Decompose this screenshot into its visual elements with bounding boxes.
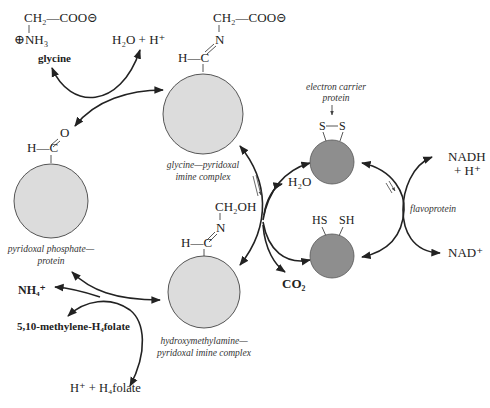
hydroxymethylamine-complex: CH₂OH N H—C hydroxymethylamine— pyridoxa… <box>156 199 256 358</box>
hmc-formula-top: CH₂OH <box>215 199 256 214</box>
nadh-h-label: + H⁺ <box>454 163 481 178</box>
ppp-protein-circle <box>14 164 88 238</box>
ppp-label-2: protein <box>36 256 64 266</box>
ppp-o: O <box>60 125 69 140</box>
electron-carrier-protein: electron carrier protein S S HS SH <box>306 82 366 278</box>
ecp-hs: HS <box>312 213 327 227</box>
ecp-label-1: electron carrier <box>306 82 366 92</box>
glycine-label: glycine <box>38 52 71 64</box>
hmc-hc: H—C <box>181 235 212 250</box>
bond-line <box>339 227 343 236</box>
pyridoxal-to-imine-arrow <box>75 90 163 126</box>
co2-label: CO₂ <box>282 276 306 291</box>
gpc-protein-circle <box>163 74 243 154</box>
ecp-label-2: protein <box>321 93 349 103</box>
folate-arc <box>68 301 142 386</box>
arrow-to-h2o <box>264 184 282 215</box>
glycine-cleavage-diagram: CH₂—COO⊝ ⊕NH₃ glycine H₂O + H⁺ CH₂—COO⊝ … <box>0 0 490 408</box>
nh4-arrow <box>55 287 100 297</box>
ecp-sh: SH <box>339 213 355 227</box>
hmc-to-pyridoxal-arrow <box>72 272 160 300</box>
arrow-to-oxidized-carrier <box>263 163 310 220</box>
gpc-label-1: glycine—pyridoxal <box>167 160 240 170</box>
nadh-label: NADH <box>448 149 486 164</box>
methylene-folate-label: 5,10-methylene-H₄folate <box>17 320 130 332</box>
gpc-label-2: imine complex <box>175 172 231 182</box>
ppp-hc: H—C <box>27 140 58 155</box>
nh4-label: NH₄⁺ <box>18 283 46 297</box>
ecp-s-left: S <box>319 119 326 133</box>
hmc-n: N <box>216 220 226 235</box>
reduced-carrier-circle <box>310 234 354 278</box>
gpc-hc: H—C <box>178 50 209 65</box>
hmc-label-2: pyridoxal imine complex <box>156 348 252 358</box>
glycine-formula-top: CH₂—COO⊝ <box>24 10 98 25</box>
oxidized-carrier-circle <box>310 140 354 184</box>
h2o-label: H₂O <box>288 174 311 189</box>
glycine-formula-bottom: ⊕NH₃ <box>14 32 48 47</box>
hmc-protein-circle <box>168 256 240 328</box>
h-folate-label: H⁺ + H₄folate <box>70 381 141 395</box>
nad-label: NAD⁺ <box>448 245 483 260</box>
hmc-label-1: hydroxymethylamine— <box>160 336 248 346</box>
ppp-label-1: pyridoxal phosphate— <box>7 244 95 254</box>
gpc-n: N <box>215 32 225 47</box>
flavoprotein-label: flavoprotein <box>410 204 456 214</box>
bond-line <box>323 132 326 141</box>
flavoprotein-left-arc <box>362 163 404 257</box>
water-proton-label: H₂O + H⁺ <box>112 32 165 47</box>
glycine-molecule: CH₂—COO⊝ ⊕NH₃ glycine <box>14 10 98 64</box>
pyridoxal-phosphate-protein: O H—C pyridoxal phosphate— protein <box>7 125 95 266</box>
glycine-pyridoxal-complex: CH₂—COO⊝ N H—C glycine—pyridoxal imine c… <box>163 10 287 182</box>
ecp-s-right: S <box>339 119 346 133</box>
gpc-formula-top: CH₂—COO⊝ <box>213 10 287 25</box>
bond-line <box>340 132 343 141</box>
